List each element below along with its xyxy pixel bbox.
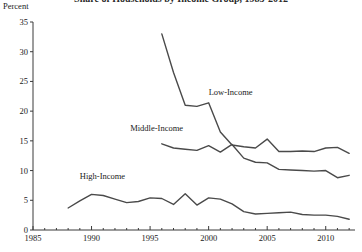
- chart-figure: Share of Households by Income Group, 198…: [0, 0, 362, 252]
- plot-canvas: [0, 0, 362, 252]
- series-line-high-income: [68, 194, 349, 220]
- series-line-low-income: [162, 34, 349, 153]
